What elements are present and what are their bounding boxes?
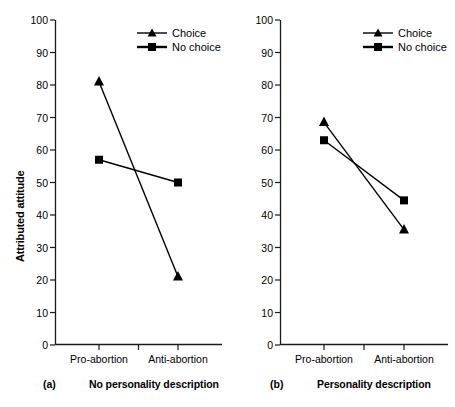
y-tick-label: 60 [22,145,48,155]
y-tick-label: 80 [247,80,273,90]
y-tick-label: 60 [247,145,273,155]
legend-label-choice: Choice [398,27,432,39]
x-tick-label-anti-abortion: Anti-abortion [365,353,443,365]
y-tick-label: 20 [247,275,273,285]
legend-item-choice: Choice [363,26,447,40]
square-marker-icon [137,41,167,53]
figure-container: 100 90 80 70 60 50 40 30 20 10 0 Pro-abo… [0,0,455,407]
x-ticks-a [99,345,178,350]
y-ticks-b [275,20,280,345]
y-tick-label: 0 [247,340,273,350]
triangle-up-marker-icon [137,27,167,39]
y-tick-label: 70 [22,113,48,123]
legend-b: Choice No choice [363,26,447,54]
y-ticks-a [50,20,55,345]
y-axis-title: Attributed attitude [14,170,26,262]
legend-a: Choice No choice [137,26,221,54]
legend-item-no-choice: No choice [137,40,221,54]
legend-label-no-choice: No choice [172,41,221,53]
chart-panel-b: 100 90 80 70 60 50 40 30 20 10 0 Pro-abo… [227,0,455,407]
y-tick-label: 50 [247,178,273,188]
series-line-choice-b [324,122,404,229]
legend-item-no-choice: No choice [363,40,447,54]
x-ticks-b [324,345,404,350]
x-tick-label-anti-abortion: Anti-abortion [139,353,217,365]
data-point-choice-pro-b [319,117,329,127]
panel-caption-a: No personality description [89,378,219,390]
triangle-up-marker-icon [363,27,393,39]
x-tick-label-pro-abortion: Pro-abortion [285,353,363,365]
y-tick-label: 100 [247,15,273,25]
chart-panel-a: 100 90 80 70 60 50 40 30 20 10 0 Pro-abo… [0,0,228,407]
data-point-no-choice-anti-b [400,196,408,204]
y-tick-label: 20 [22,275,48,285]
y-tick-label: 100 [22,15,48,25]
legend-label-choice: Choice [172,27,206,39]
data-point-no-choice-anti-a [174,179,182,187]
y-tick-label: 70 [247,113,273,123]
y-tick-label: 80 [22,80,48,90]
series-line-no-choice-b [324,140,404,200]
panel-tag-b: (b) [270,378,283,390]
y-tick-label: 90 [22,48,48,58]
panel-tag-a: (a) [43,378,56,390]
y-tick-label: 40 [247,210,273,220]
y-tick-label: 90 [247,48,273,58]
panel-caption-b: Personality description [317,378,431,390]
square-marker-icon [363,41,393,53]
legend-label-no-choice: No choice [398,41,447,53]
legend-item-choice: Choice [137,26,221,40]
data-point-choice-anti-a [173,271,183,281]
y-tick-label: 10 [247,308,273,318]
data-point-choice-pro-a [94,76,104,86]
y-tick-label: 0 [22,340,48,350]
y-tick-label: 30 [247,243,273,253]
x-tick-label-pro-abortion: Pro-abortion [60,353,138,365]
data-point-no-choice-pro-a [95,156,103,164]
y-tick-label: 10 [22,308,48,318]
data-point-no-choice-pro-b [320,136,328,144]
